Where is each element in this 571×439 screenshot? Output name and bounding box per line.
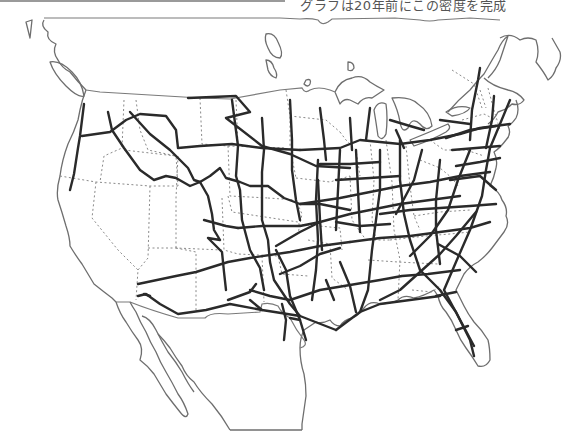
highway-i95 xyxy=(444,100,510,346)
highway-i10-east xyxy=(336,296,440,330)
highway-ne-2 xyxy=(452,146,500,150)
state-border xyxy=(124,150,178,186)
lake-manitoba xyxy=(266,60,277,78)
lake-small xyxy=(348,62,354,71)
state-border xyxy=(480,90,486,108)
state-borders-layer xyxy=(60,70,500,312)
highway-i76 xyxy=(456,158,500,166)
vancouver-island xyxy=(50,62,84,97)
highway-tx-3 xyxy=(282,304,286,340)
pacific-coast xyxy=(57,90,116,302)
highway-i70-west xyxy=(204,220,238,228)
highway-i88 xyxy=(440,120,470,124)
highway-i35-north xyxy=(320,108,326,160)
highway-i39 xyxy=(350,118,352,150)
lake-michigan xyxy=(374,103,387,139)
mexico-gulf-coast xyxy=(300,348,306,430)
bc-mainland-coast xyxy=(43,20,86,90)
lake-ontario xyxy=(446,107,470,116)
highway-mw-grid-5 xyxy=(336,222,390,226)
state-border xyxy=(414,210,470,216)
highway-i5 xyxy=(70,104,84,190)
state-border xyxy=(176,248,196,312)
state-border xyxy=(368,260,438,264)
highway-i65 xyxy=(360,150,380,312)
state-border xyxy=(406,146,420,230)
great-lakes xyxy=(335,77,384,104)
bc-coast xyxy=(26,20,32,38)
highway-tx-4 xyxy=(290,318,306,340)
us-highway-map xyxy=(0,0,571,439)
lake-huron xyxy=(392,98,432,130)
highway-i10-west xyxy=(138,294,336,330)
highway-i8 xyxy=(144,294,150,296)
lake-of-woods xyxy=(304,80,311,87)
highway-i43 xyxy=(366,108,370,140)
highway-tx-2 xyxy=(228,284,256,300)
state-border xyxy=(222,198,308,276)
canada-top-edge xyxy=(44,18,500,24)
gulf-of-california-east xyxy=(142,316,194,392)
mexico-pacific-coast xyxy=(158,334,230,430)
quebec-east-coast xyxy=(500,35,561,80)
highway-mw-grid-4 xyxy=(336,176,400,180)
state-border xyxy=(138,186,150,270)
state-border xyxy=(136,100,176,156)
state-border xyxy=(290,116,340,132)
highway-mw-grid-3 xyxy=(320,162,380,164)
lake-winnipeg xyxy=(265,34,281,58)
state-border xyxy=(176,156,178,248)
state-border xyxy=(92,182,138,300)
